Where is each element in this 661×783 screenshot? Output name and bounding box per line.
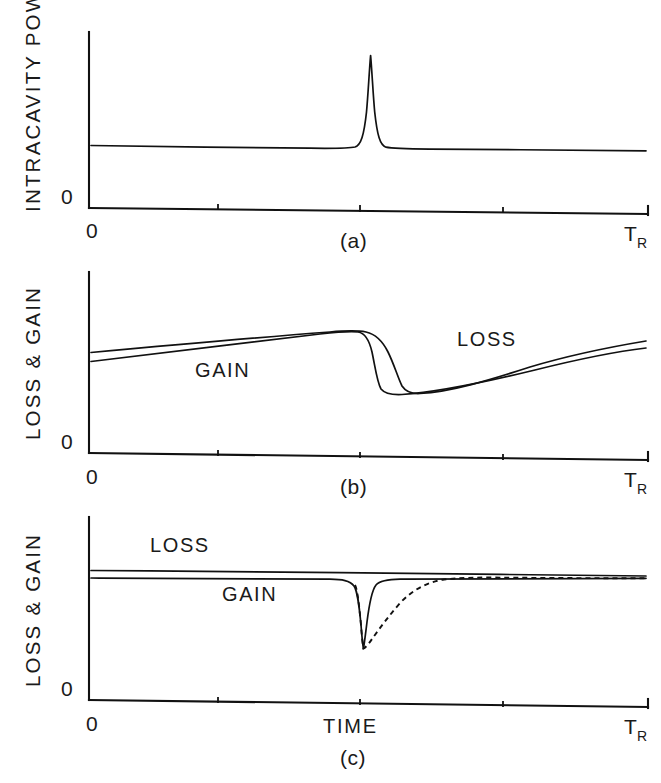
panel-c: LOSS & GAIN LOSS GAIN 0 0 TIME T R (c) (21, 517, 648, 769)
panel-a-x-end-label: T (624, 222, 637, 245)
panel-c-x-axis (89, 700, 648, 707)
panel-c-x-zero-label: 0 (86, 712, 98, 735)
panel-c-ylabel: LOSS & GAIN (21, 533, 44, 687)
figure-container: INTRACAVITY POWER 0 0 T R (a) LOSS & GAI… (0, 0, 661, 783)
panel-b-ylabel: LOSS & GAIN (21, 286, 44, 440)
panel-a-x-end-label-sub: R (637, 235, 647, 251)
panel-c-x-end-label: T (624, 715, 637, 738)
panel-c-x-end-label-sub: R (637, 728, 647, 744)
panel-a: INTRACAVITY POWER 0 0 T R (a) (21, 0, 648, 252)
panel-a-y-zero-label: 0 (61, 185, 73, 208)
panel-c-loss-label: LOSS (150, 534, 210, 556)
panel-b-x-axis (89, 453, 648, 460)
panel-c-gain-label: GAIN (222, 583, 277, 605)
panel-c-x-axis-label: TIME (323, 715, 378, 737)
panel-b-x-zero-label: 0 (86, 465, 98, 488)
panel-c-gain-curve (91, 578, 646, 649)
panel-a-x-axis (89, 208, 648, 214)
panel-b-y-zero-label: 0 (61, 430, 73, 453)
panel-c-y-zero-label: 0 (61, 677, 73, 700)
panel-b-x-end-label: T (624, 468, 637, 491)
panel-b-x-end-label-sub: R (637, 481, 647, 497)
panel-b: LOSS & GAIN GAIN LOSS 0 0 T R (b) (21, 272, 648, 498)
panel-c-caption: (c) (340, 746, 366, 769)
panel-b-gain-label: GAIN (195, 359, 250, 381)
panel-a-x-zero-label: 0 (86, 219, 98, 242)
panel-a-caption: (a) (340, 229, 367, 252)
panel-c-loss-curve (91, 571, 646, 577)
panel-b-caption: (b) (340, 475, 367, 498)
panel-c-gain-slow-recovery-curve (355, 578, 646, 649)
panel-a-ylabel: INTRACAVITY POWER (21, 0, 44, 212)
panel-a-intracavity-power-curve (91, 56, 646, 151)
panel-b-loss-label: LOSS (457, 328, 517, 350)
panel-b-gain-curve (91, 332, 646, 395)
